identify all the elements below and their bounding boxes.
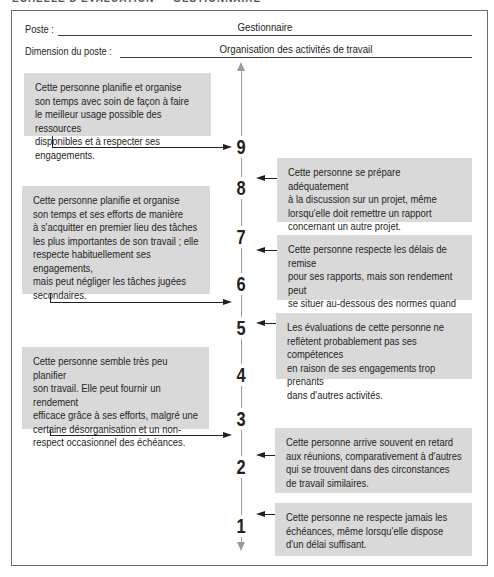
anchor-box-level-3: Cette personne semble très peu planifier…	[22, 347, 209, 429]
axis-arrow-down-icon	[237, 542, 245, 551]
anchor-box-level-7: Cette personne respecte les délais de re…	[277, 235, 472, 300]
dimension-underline	[120, 57, 472, 58]
poste-label: Poste :	[25, 23, 54, 35]
arrow-right-icon	[223, 432, 232, 438]
anchor-text-level-6: Cette personne planifie et organise son …	[33, 194, 200, 302]
axis-arrow-up-icon	[237, 62, 245, 71]
dimension-value: Organisation des activités de travail	[141, 43, 451, 55]
connector-level-3-horizontal	[50, 435, 224, 436]
anchor-box-level-6: Cette personne planifie et organise son …	[22, 186, 210, 294]
anchor-text-level-1: Cette personne ne respecte jamais les éc…	[286, 511, 462, 552]
poste-value: Gestionnaire	[83, 21, 447, 33]
scale-tick-5: 5	[235, 317, 247, 339]
connector-level-6-horizontal	[50, 302, 224, 303]
scale-tick-6: 6	[235, 273, 247, 295]
anchor-text-level-2: Cette personne arrive souvent en retard …	[286, 436, 462, 490]
scale-tick-3: 3	[235, 408, 247, 430]
dimension-label: Dimension du poste :	[25, 45, 112, 57]
arrow-right-icon	[223, 144, 232, 150]
connector-level-5	[264, 323, 276, 324]
anchor-text-level-7: Cette personne respecte les délais de re…	[288, 243, 462, 324]
scale-tick-1: 1	[235, 515, 247, 537]
connector-level-9-horizontal	[52, 147, 224, 148]
clipped-page-heading: ÉCHELLE D'ÉVALUATION — GESTIONNAIRE	[12, 0, 261, 4]
connector-level-7	[264, 250, 277, 251]
connector-level-8	[264, 178, 277, 179]
anchor-box-level-1: Cette personne ne respecte jamais les éc…	[275, 503, 472, 556]
poste-underline	[58, 35, 472, 36]
anchor-box-level-2: Cette personne arrive souvent en retard …	[275, 428, 472, 493]
arrow-right-icon	[223, 299, 232, 305]
anchor-text-level-8: Cette personne se prépare adéquatement à…	[288, 166, 462, 234]
scale-tick-8: 8	[235, 177, 247, 199]
connector-level-1	[264, 514, 275, 515]
scale-tick-2: 2	[235, 456, 247, 478]
anchor-box-level-8: Cette personne se prépare adéquatement à…	[277, 158, 472, 222]
scale-tick-9: 9	[235, 136, 247, 158]
connector-level-2	[264, 455, 275, 456]
anchor-text-level-9: Cette personne planifie et organise son …	[35, 81, 201, 162]
scale-tick-4: 4	[235, 364, 247, 386]
anchor-box-level-5: Les évaluations de cette personne ne ref…	[276, 313, 472, 379]
anchor-box-level-9: Cette personne planifie et organise son …	[24, 73, 211, 136]
scale-tick-7: 7	[235, 226, 247, 248]
anchor-text-level-5: Les évaluations de cette personne ne ref…	[287, 321, 462, 402]
